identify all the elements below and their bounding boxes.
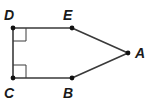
right-angle-marker-d <box>13 28 26 41</box>
label-d: D <box>4 7 14 23</box>
point-b <box>70 76 75 81</box>
geometry-diagram: D E A B C <box>0 0 152 102</box>
label-c: C <box>4 85 15 101</box>
point-a <box>126 51 131 56</box>
segment-ab <box>72 53 128 78</box>
label-e: E <box>63 7 73 23</box>
label-b: B <box>63 85 73 101</box>
segment-ea <box>72 28 128 53</box>
point-c <box>11 76 16 81</box>
right-angle-marker-c <box>13 65 26 78</box>
point-d <box>11 26 16 31</box>
label-a: A <box>134 45 145 61</box>
point-e <box>70 26 75 31</box>
